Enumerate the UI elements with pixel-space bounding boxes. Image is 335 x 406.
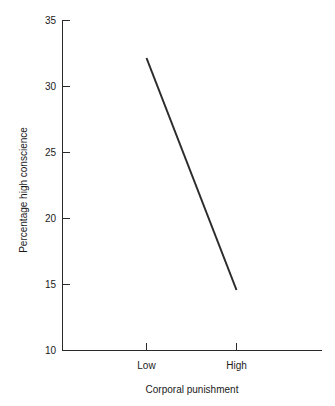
y-tick-label-35: 35 (45, 15, 57, 26)
y-axis-title: Percentage high conscience (18, 127, 29, 253)
y-tick-label-20: 20 (45, 213, 57, 224)
y-tick-label-25: 25 (45, 147, 57, 158)
x-tick-label-low: Low (137, 360, 156, 371)
line-chart: 35 30 25 20 15 10 Low High Corporal puni… (0, 0, 335, 406)
y-tick-label-15: 15 (45, 279, 57, 290)
data-line-series-1 (147, 58, 237, 290)
y-tick-label-10: 10 (45, 345, 57, 356)
y-tick-label-30: 30 (45, 81, 57, 92)
x-axis-title: Corporal punishment (146, 384, 239, 395)
chart-page: 35 30 25 20 15 10 Low High Corporal puni… (0, 0, 335, 406)
x-tick-label-high: High (226, 360, 247, 371)
